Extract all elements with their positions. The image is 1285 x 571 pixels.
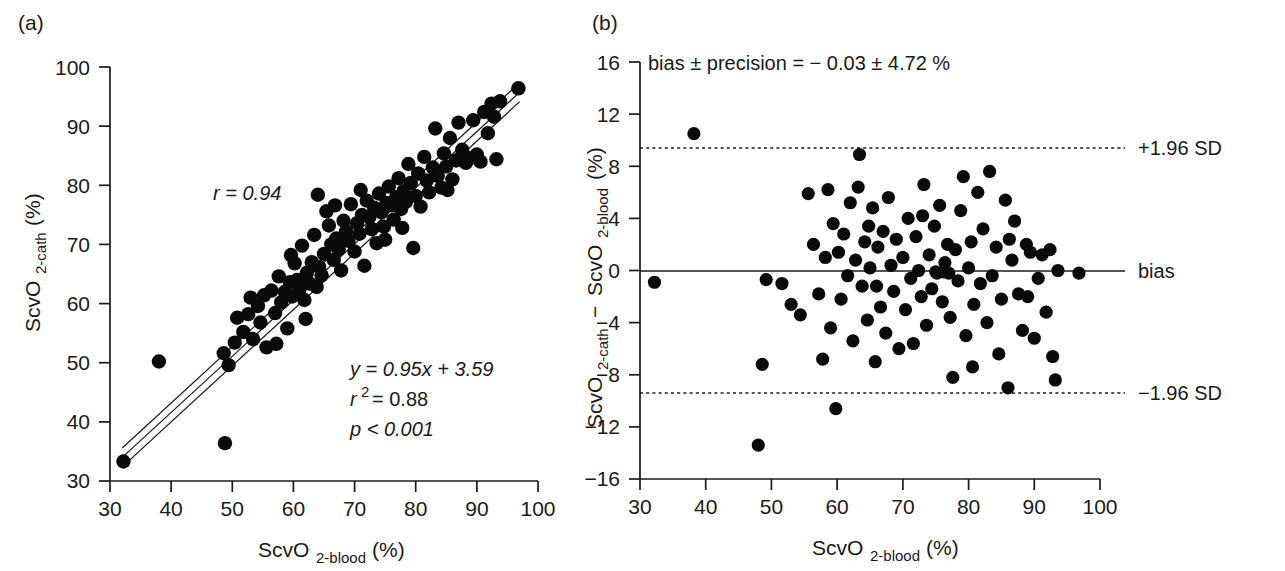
data-point — [648, 276, 661, 289]
data-point — [829, 402, 842, 415]
data-point — [858, 235, 871, 248]
svg-text:(%): (%) — [926, 536, 959, 559]
data-point — [311, 188, 325, 202]
panel-b-x-tick-labels: 30 40 50 60 70 80 90 100 — [628, 495, 1117, 518]
data-point — [344, 197, 358, 211]
data-point — [971, 186, 984, 199]
y-tick-70: 70 — [67, 233, 90, 256]
data-point — [487, 109, 501, 123]
data-point — [846, 334, 859, 347]
data-point — [832, 246, 845, 259]
data-point — [1008, 214, 1021, 227]
svg-text:ScvO: ScvO — [258, 538, 309, 561]
data-point — [269, 337, 283, 351]
x-tick-60: 60 — [282, 497, 305, 520]
data-point — [912, 264, 925, 277]
data-point — [473, 154, 487, 168]
data-point — [965, 235, 978, 248]
data-point — [923, 248, 936, 261]
panel-b-header-annotation: bias ± precision = − 0.03 ± 4.72 % — [648, 52, 950, 74]
svg-text:2-blood: 2-blood — [594, 188, 611, 238]
annotation-regression: y = 0.95x + 3.59 r 2 = 0.88 p < 0.001 — [348, 358, 493, 440]
data-point — [1001, 381, 1014, 394]
data-point — [314, 268, 328, 282]
data-point — [861, 313, 874, 326]
svg-text:(%): (%) — [21, 193, 44, 226]
data-point — [812, 287, 825, 300]
data-point — [353, 183, 367, 197]
data-point — [877, 225, 890, 238]
data-point — [1003, 233, 1016, 246]
svg-text:r: r — [350, 388, 358, 410]
data-point — [413, 199, 427, 213]
data-point — [307, 228, 321, 242]
data-point — [917, 178, 930, 191]
data-point — [794, 308, 807, 321]
data-point — [298, 312, 312, 326]
data-point — [983, 165, 996, 178]
x-tick-30: 30 — [98, 497, 121, 520]
svg-text:p < 0.001: p < 0.001 — [349, 418, 434, 440]
data-point — [1049, 373, 1062, 386]
panel-b-data-points — [648, 127, 1086, 452]
svg-text:y = 0.95x + 3.59: y = 0.95x + 3.59 — [348, 358, 493, 380]
data-point — [297, 293, 311, 307]
svg-text:ScvO: ScvO — [583, 245, 606, 296]
panel-a-correlation: (a) 100 90 80 70 60 50 40 — [0, 0, 580, 571]
data-point — [866, 201, 879, 214]
data-point — [916, 209, 929, 222]
data-point — [1072, 267, 1085, 280]
y-tick-12: 12 — [597, 103, 620, 126]
data-point — [347, 244, 361, 258]
data-point — [221, 358, 235, 372]
svg-text:ScvO: ScvO — [21, 281, 44, 332]
data-point — [974, 277, 987, 290]
data-point — [1051, 264, 1064, 277]
panel-a-svg: (a) 100 90 80 70 60 50 40 — [0, 0, 580, 571]
data-point — [819, 251, 832, 264]
data-point — [1024, 246, 1037, 259]
svg-text:ScvO: ScvO — [812, 536, 863, 559]
y-tick-90: 90 — [67, 115, 90, 138]
data-point — [990, 240, 1003, 253]
x-tick-70: 70 — [891, 495, 914, 518]
data-point — [437, 146, 451, 160]
data-point — [966, 360, 979, 373]
data-point — [295, 238, 309, 252]
data-point — [493, 94, 507, 108]
data-point — [980, 316, 993, 329]
y-tick-16: 16 — [597, 51, 620, 74]
data-point — [322, 218, 336, 232]
panel-b-tag: (b) — [592, 11, 618, 34]
data-point — [959, 329, 972, 342]
y-tick-60: 60 — [67, 292, 90, 315]
y-tick-80: 80 — [67, 174, 90, 197]
data-point — [999, 194, 1012, 207]
data-point — [909, 230, 922, 243]
data-point — [218, 436, 232, 450]
data-point — [756, 358, 769, 371]
data-point — [264, 283, 278, 297]
data-point — [976, 222, 989, 235]
x-tick-70: 70 — [343, 497, 366, 520]
data-point — [378, 232, 392, 246]
svg-text:(%): (%) — [583, 147, 606, 180]
panel-a-tag: (a) — [18, 11, 44, 34]
annotation-r: r = 0.94 — [213, 182, 281, 204]
x-tick-30: 30 — [628, 495, 651, 518]
data-point — [760, 273, 773, 286]
x-tick-90: 90 — [1023, 495, 1046, 518]
panel-a-y-axis-title: ScvO 2-cath (%) — [21, 193, 49, 332]
data-point — [936, 295, 949, 308]
panel-a-y-tick-labels: 100 90 80 70 60 50 40 30 — [55, 56, 90, 492]
x-tick-60: 60 — [825, 495, 848, 518]
svg-text:(%): (%) — [372, 538, 405, 561]
data-point — [451, 115, 465, 129]
data-point — [802, 187, 815, 200]
y-tick-8: 8 — [608, 155, 620, 178]
data-point — [902, 212, 915, 225]
data-point — [1046, 350, 1059, 363]
figure-container: (a) 100 90 80 70 60 50 40 — [0, 0, 1285, 571]
data-point — [896, 251, 909, 264]
svg-text:−: − — [583, 306, 606, 318]
